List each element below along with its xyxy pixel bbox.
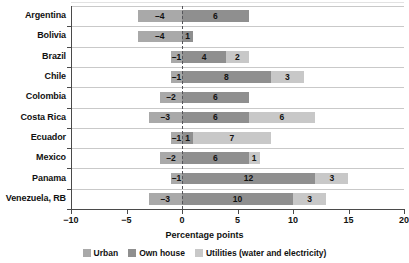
category-label-panama: Panama bbox=[0, 173, 66, 183]
category-tick bbox=[67, 67, 71, 68]
chart-legend: UrbanOwn houseUtilities (water and elect… bbox=[0, 248, 409, 258]
x-axis-tick bbox=[349, 210, 350, 214]
x-axis-tick bbox=[182, 210, 183, 214]
category-label-brazil: Brazil bbox=[0, 51, 66, 61]
bar-value-label: 10 bbox=[233, 195, 242, 204]
bar-value-label: 6 bbox=[213, 93, 218, 102]
bar-segment-own-house: 1 bbox=[182, 132, 193, 144]
category-label-colombia: Colombia bbox=[0, 91, 66, 101]
x-axis-title: Percentage points bbox=[0, 230, 409, 240]
bar-segment-own-house: 6 bbox=[182, 112, 249, 124]
bar-segment-urban: –1 bbox=[171, 132, 182, 144]
bar-segment-urban: –2 bbox=[160, 92, 182, 104]
bar-value-label: 1 bbox=[185, 32, 190, 41]
bar-value-label: 7 bbox=[230, 134, 235, 143]
category-label-venezuela-rb: Venezuela, RB bbox=[0, 193, 66, 203]
category-tick bbox=[67, 108, 71, 109]
legend-item: Own house bbox=[128, 248, 185, 258]
chart-row: –1123 bbox=[71, 168, 404, 188]
bar-segment-own-house: 10 bbox=[182, 193, 293, 205]
legend-item: Utilities (water and electricity) bbox=[195, 248, 326, 258]
x-axis-tick-label: 15 bbox=[343, 215, 353, 225]
category-tick bbox=[67, 128, 71, 129]
bar-segment-own-house: 6 bbox=[182, 92, 249, 104]
zero-reference-line bbox=[182, 6, 183, 209]
bar-segment-utilities: 3 bbox=[271, 71, 304, 83]
bar-value-label: –2 bbox=[166, 93, 175, 102]
bar-segment-urban: –1 bbox=[171, 51, 182, 63]
category-axis-line bbox=[71, 6, 72, 210]
chart-row: –142 bbox=[71, 47, 404, 67]
bar-value-label: 1 bbox=[185, 134, 190, 143]
category-label-chile: Chile bbox=[0, 71, 66, 81]
x-axis-tick bbox=[127, 210, 128, 214]
category-tick bbox=[67, 47, 71, 48]
bar-segment-urban: –3 bbox=[149, 193, 182, 205]
bar-segment-urban: –4 bbox=[138, 31, 182, 43]
bar-value-label: –1 bbox=[172, 134, 181, 143]
bar-value-label: 3 bbox=[285, 73, 290, 82]
bar-segment-urban: –2 bbox=[160, 152, 182, 164]
bar-segment-own-house: 1 bbox=[182, 31, 193, 43]
bar-segment-utilities: 6 bbox=[249, 112, 316, 124]
bar-value-label: 8 bbox=[224, 73, 229, 82]
bar-segment-own-house: 6 bbox=[182, 152, 249, 164]
bar-value-label: 1 bbox=[252, 154, 257, 163]
x-axis-tick-label: 5 bbox=[235, 215, 240, 225]
bar-value-label: –3 bbox=[161, 113, 170, 122]
category-label-argentina: Argentina bbox=[0, 10, 66, 20]
x-axis-tick-label: 10 bbox=[288, 215, 298, 225]
x-axis-tick-label: −10 bbox=[63, 215, 78, 225]
bar-segment-urban: –4 bbox=[138, 10, 182, 22]
x-axis-tick-label: −5 bbox=[121, 215, 131, 225]
bar-segment-own-house: 6 bbox=[182, 10, 249, 22]
x-axis-tick bbox=[293, 210, 294, 214]
x-axis-tick bbox=[404, 210, 405, 214]
bar-value-label: –4 bbox=[155, 12, 164, 21]
x-axis-tick-label: 0 bbox=[179, 215, 184, 225]
bar-value-label: 3 bbox=[329, 174, 334, 183]
bar-value-label: –1 bbox=[172, 53, 181, 62]
bar-value-label: 6 bbox=[213, 12, 218, 21]
chart-row: –183 bbox=[71, 67, 404, 87]
bar-value-label: –2 bbox=[166, 154, 175, 163]
bar-segment-utilities: 3 bbox=[293, 193, 326, 205]
category-tick bbox=[67, 148, 71, 149]
bar-value-label: 4 bbox=[202, 53, 207, 62]
bar-value-label: –1 bbox=[172, 73, 181, 82]
chart-row: –41 bbox=[71, 26, 404, 46]
bar-value-label: 6 bbox=[213, 113, 218, 122]
bar-value-label: 3 bbox=[307, 195, 312, 204]
chart-row: –3103 bbox=[71, 189, 404, 209]
chart-row: –26 bbox=[71, 87, 404, 107]
legend-label: Utilities (water and electricity) bbox=[206, 248, 326, 258]
bar-segment-urban: –3 bbox=[149, 112, 182, 124]
legend-swatch-icon bbox=[128, 249, 136, 257]
category-tick bbox=[67, 26, 71, 27]
category-tick bbox=[67, 87, 71, 88]
bar-segment-own-house: 4 bbox=[182, 51, 226, 63]
bar-segment-utilities: 2 bbox=[226, 51, 248, 63]
bar-value-label: 6 bbox=[280, 113, 285, 122]
category-label-costa-rica: Costa Rica bbox=[0, 112, 66, 122]
chart-container: –46–41–142–183–26–366–117–261–1123–3103 … bbox=[0, 0, 409, 263]
bar-value-label: –4 bbox=[155, 32, 164, 41]
chart-row: –366 bbox=[71, 108, 404, 128]
category-label-mexico: Mexico bbox=[0, 152, 66, 162]
category-tick bbox=[67, 189, 71, 190]
chart-row: –117 bbox=[71, 128, 404, 148]
bar-value-label: –3 bbox=[161, 195, 170, 204]
legend-label: Urban bbox=[94, 248, 119, 258]
bar-segment-own-house: 8 bbox=[182, 71, 271, 83]
chart-row: –261 bbox=[71, 148, 404, 168]
bar-value-label: –1 bbox=[172, 174, 181, 183]
bar-segment-utilities: 1 bbox=[249, 152, 260, 164]
legend-item: Urban bbox=[83, 248, 119, 258]
x-axis-tick bbox=[238, 210, 239, 214]
plot-area: –46–41–142–183–26–366–117–261–1123–3103 bbox=[71, 6, 404, 209]
bar-value-label: 6 bbox=[213, 154, 218, 163]
category-label-bolivia: Bolivia bbox=[0, 30, 66, 40]
bar-segment-utilities: 3 bbox=[315, 173, 348, 185]
category-tick bbox=[67, 168, 71, 169]
chart-row: –46 bbox=[71, 6, 404, 26]
